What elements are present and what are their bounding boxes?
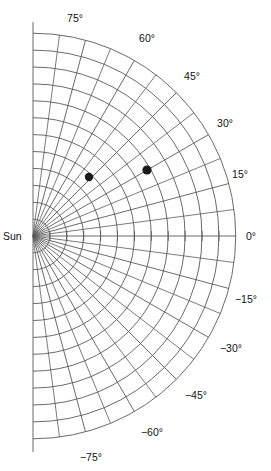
spoke-neg-60 bbox=[33, 236, 134, 412]
angle-label-75: 75° bbox=[67, 12, 83, 24]
spoke-neg-22-5 bbox=[33, 236, 220, 314]
data-point-2 bbox=[142, 165, 151, 174]
angle-label-neg-60: −60° bbox=[141, 426, 163, 438]
angle-label-45: 45° bbox=[184, 70, 200, 82]
spoke-15 bbox=[33, 184, 229, 237]
spoke-neg-45 bbox=[33, 236, 176, 379]
angle-label-neg-15: −15° bbox=[235, 293, 257, 305]
polar-plot-svg: 75° 60° 45° 30° 15° 0° −15° −30° −45° −6… bbox=[0, 0, 271, 471]
angle-label-neg-30: −30° bbox=[220, 342, 242, 354]
angle-label-30: 30° bbox=[217, 117, 233, 129]
data-point-1 bbox=[85, 173, 93, 181]
spoke-neg-15 bbox=[33, 236, 229, 289]
spoke-neg-67-5 bbox=[33, 236, 111, 423]
spoke-60 bbox=[33, 60, 134, 236]
angle-label-neg-45: −45° bbox=[185, 389, 207, 401]
spoke-neg-75 bbox=[33, 236, 86, 432]
origin-label-sun: Sun bbox=[3, 230, 22, 242]
spoke-30 bbox=[33, 135, 209, 236]
spoke-75 bbox=[33, 40, 86, 236]
spoke-45 bbox=[33, 93, 176, 236]
spoke-neg-7-5 bbox=[33, 236, 234, 263]
spoke-67-5 bbox=[33, 49, 111, 236]
angle-label-15: 15° bbox=[232, 168, 248, 180]
spoke-7-5 bbox=[33, 210, 234, 237]
angle-label-60: 60° bbox=[139, 32, 155, 44]
polar-diagram: 75° 60° 45° 30° 15° 0° −15° −30° −45° −6… bbox=[0, 0, 271, 471]
spoke-22-5 bbox=[33, 158, 220, 236]
angle-label-neg-75: −75° bbox=[80, 451, 102, 463]
angle-label-0: 0° bbox=[246, 230, 256, 242]
spoke-neg-30 bbox=[33, 236, 209, 337]
